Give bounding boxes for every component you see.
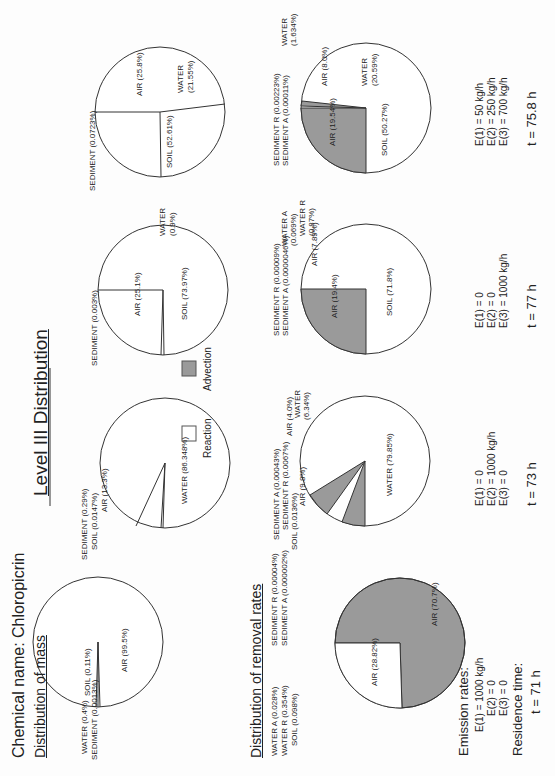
label: WATER xyxy=(280,18,289,46)
label: AIR (9.8%) xyxy=(298,467,307,506)
residence-time: t = 73 h xyxy=(524,462,539,506)
emission-e3: E(3) = 0 xyxy=(498,470,510,506)
emission-e2: E(2) = 0 xyxy=(486,292,498,328)
label: (1.634%) xyxy=(289,14,298,46)
label: (21.55%) xyxy=(186,61,195,93)
label: WATER xyxy=(360,58,369,86)
label: SOIL (50.27%) xyxy=(380,103,389,156)
label: AIR (19.54%) xyxy=(328,98,337,146)
label: SEDIMENT (0.29%) xyxy=(80,489,89,560)
label: SOIL (52.61%) xyxy=(165,115,174,168)
emission-e2: E(2) = 0 xyxy=(486,680,498,716)
label: SEDIMENT (0.0723%) xyxy=(88,111,97,191)
label: SOIL (73.97%) xyxy=(180,267,189,320)
legend-reaction-label: Reaction xyxy=(202,419,214,458)
emission-e3: E(3) = 700 kg/h xyxy=(498,77,510,146)
residence-time: t = 75.8 h xyxy=(524,91,539,146)
emission-e1: E(1) = 1000 kg/h xyxy=(474,658,486,732)
section-removal: Distribution of removal rates xyxy=(248,584,264,758)
emission-header: Emission rates: xyxy=(456,667,471,756)
emission-e3: E(3) = 1000 kg/h xyxy=(498,254,510,328)
label: WATER A (0.028%) xyxy=(270,687,279,756)
label: WATER (86.348%) xyxy=(180,437,189,504)
label: SOIL (71.8%) xyxy=(385,268,394,316)
emission-e2: E(2) = 1000 kg/h xyxy=(486,432,498,506)
emission-e1: E(1) = 0 xyxy=(474,470,486,506)
emission-e1: E(1) = 50 kg/h xyxy=(474,83,486,146)
legend-advection-label: Advection xyxy=(202,347,214,391)
label: WATER xyxy=(293,390,302,418)
label: SOIL (0.098%) xyxy=(290,693,299,746)
label: AIR (13.3%) xyxy=(100,468,109,512)
label: (0.87%) xyxy=(307,208,316,236)
label: AIR (25.1%) xyxy=(133,272,142,316)
label: SEDIMENT A (0.000002%) xyxy=(280,550,289,646)
label: SEDIMENT A (0.00011%) xyxy=(281,75,290,166)
label: SEDIMENT A (0.00043%) xyxy=(272,449,281,540)
legend-advection-swatch xyxy=(182,361,196,376)
residence-time: t = 71 h xyxy=(528,670,543,714)
label: AIR (70.7%) xyxy=(430,582,439,626)
label: SEDIMENT R (0.00009%) xyxy=(272,243,281,336)
emission-e3: E(3) = 0 xyxy=(498,680,510,716)
label: WATER xyxy=(176,65,185,93)
residence-header: Residence time: xyxy=(510,663,525,756)
label: (0.069%) xyxy=(289,214,298,246)
label: AIR (28.82%) xyxy=(370,638,379,686)
label: SEDIMENT R (0.0067%) xyxy=(281,442,290,530)
label: WATER (79.85%) xyxy=(385,433,394,496)
page-title: Level III Distribution xyxy=(30,329,52,496)
label: SOIL (0.0136%) xyxy=(290,493,299,550)
label: AIR (25.8%) xyxy=(135,52,144,96)
section-mass: Distribution of mass xyxy=(32,635,48,758)
label: SEDIMENT (0.003%) xyxy=(90,290,99,366)
label: AIR (99.5%) xyxy=(120,628,129,672)
label: WATER R xyxy=(298,200,307,236)
label: SEDIMENT R (0.00004%) xyxy=(270,553,279,646)
label: AIR (8.0%) xyxy=(320,47,329,86)
label: SOIL (0.0147%) xyxy=(90,493,99,550)
emission-e1: E(1) = 0 xyxy=(474,292,486,328)
label: SEDIMENT A (0.0000046%) xyxy=(281,236,290,336)
label: SEDIMENT R (0.00223%) xyxy=(272,73,281,166)
emission-e2: E(2) = 250 kg/h xyxy=(486,77,498,146)
residence-time: t = 77 h xyxy=(524,284,539,328)
label: (0.9%) xyxy=(168,212,177,236)
chemical-name: Chemical name: Chloropicrin xyxy=(10,553,28,758)
document-page: Level III Distribution Chemical name: Ch… xyxy=(0,0,555,776)
label: WATER R (0.354%) xyxy=(280,685,289,756)
label: SEDIMENT (0.0013%) xyxy=(90,680,99,760)
label: AIR (19.4%) xyxy=(330,274,339,318)
label: (20.59%) xyxy=(370,54,379,86)
label: WATER (0.4%) xyxy=(80,700,89,754)
label: WATER xyxy=(158,208,167,236)
label: (6.34%) xyxy=(302,392,311,420)
